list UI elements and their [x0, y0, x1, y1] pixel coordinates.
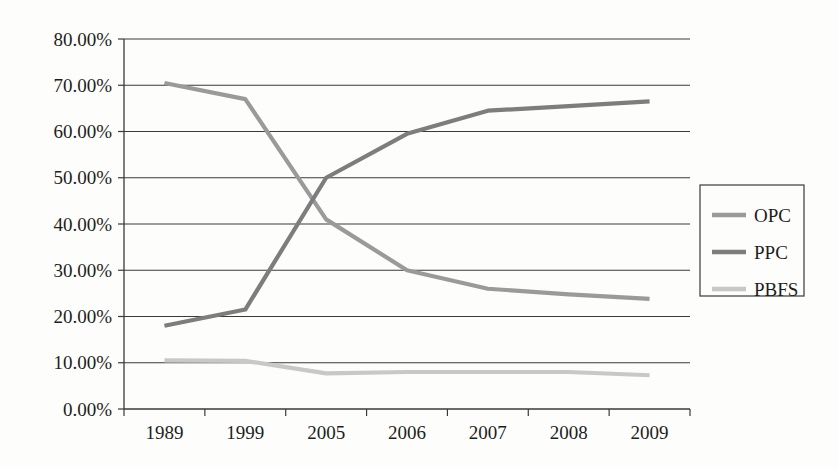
x-axis-tick-label: 1989 — [145, 422, 183, 443]
x-axis-tick-labels-group: 1989199920052006200720082009 — [145, 422, 668, 443]
series-line-ppc — [164, 101, 649, 325]
gridlines-group — [124, 39, 690, 363]
y-tick-marks-group — [118, 39, 124, 409]
x-axis-tick-label: 2006 — [388, 422, 426, 443]
y-axis-tick-label: 10.00% — [53, 352, 112, 373]
y-axis-tick-labels-group: 0.00%10.00%20.00%30.00%40.00%50.00%60.00… — [53, 29, 112, 420]
x-axis-tick-label: 2005 — [307, 422, 345, 443]
y-axis-tick-label: 40.00% — [53, 214, 112, 235]
y-axis-tick-label: 80.00% — [53, 29, 112, 50]
x-axis-tick-label: 2007 — [469, 422, 507, 443]
line-chart: 0.00%10.00%20.00%30.00%40.00%50.00%60.00… — [0, 0, 838, 469]
series-line-opc — [164, 83, 649, 299]
chart-page: 0.00%10.00%20.00%30.00%40.00%50.00%60.00… — [0, 0, 838, 469]
legend-label-opc[interactable]: OPC — [754, 205, 791, 226]
y-axis-tick-label: 0.00% — [63, 399, 112, 420]
legend-label-ppc[interactable]: PPC — [754, 242, 788, 263]
y-axis-tick-label: 50.00% — [53, 167, 112, 188]
x-axis-tick-label: 2009 — [631, 422, 669, 443]
x-axis-tick-label: 1999 — [226, 422, 264, 443]
x-tick-marks-group — [124, 409, 690, 416]
y-axis-tick-label: 60.00% — [53, 121, 112, 142]
x-axis-tick-label: 2008 — [550, 422, 588, 443]
chart-legend: OPCPPCPBFS — [700, 185, 804, 300]
y-axis-tick-label: 30.00% — [53, 260, 112, 281]
y-axis-tick-label: 20.00% — [53, 306, 112, 327]
series-group — [164, 83, 649, 375]
y-axis-tick-label: 70.00% — [53, 75, 112, 96]
legend-label-pbfs[interactable]: PBFS — [754, 279, 798, 300]
